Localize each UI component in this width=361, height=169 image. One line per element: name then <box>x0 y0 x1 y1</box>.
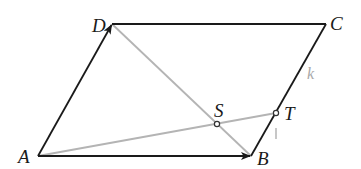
point-s-marker <box>214 121 219 126</box>
label-t: T <box>284 104 295 123</box>
diagonal-db <box>112 24 251 156</box>
label-k: k <box>307 64 314 83</box>
point-t-marker <box>273 110 278 115</box>
label-c: C <box>330 14 343 33</box>
label-a: A <box>18 147 30 166</box>
label-d: D <box>92 16 106 35</box>
parallelogram-diagram <box>0 0 361 169</box>
vector-ad <box>38 25 112 156</box>
label-b: B <box>257 149 269 168</box>
label-s: S <box>214 101 224 120</box>
edge-cb <box>251 24 326 156</box>
segment-at <box>38 113 276 156</box>
